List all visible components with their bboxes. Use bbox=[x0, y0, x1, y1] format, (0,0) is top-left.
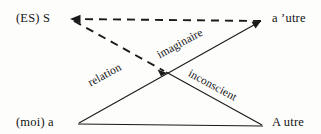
vertex-label-es-s: (ES) S bbox=[16, 12, 50, 25]
arrowhead-autre bbox=[252, 21, 262, 28]
edge-moi-to-A-utre bbox=[78, 124, 263, 126]
edge-dashed-autre-to-s bbox=[76, 19, 261, 21]
vertex-label-autre: a ’utre bbox=[272, 12, 306, 25]
vertex-label-moi-a: (moi) a bbox=[16, 116, 54, 129]
vertex-label-A-utre: A utre bbox=[272, 116, 304, 129]
